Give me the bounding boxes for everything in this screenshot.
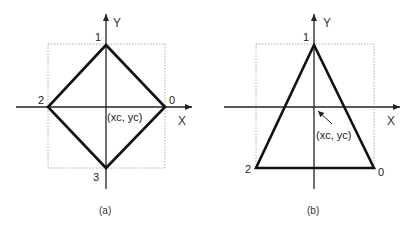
figure-a: Y X 0 1 2 3 (xc, yc) (a) (16, 14, 192, 216)
diagram-canvas: Y X 0 1 2 3 (xc, yc) (a) Y X 0 1 2 (xc, … (0, 0, 417, 230)
vertex-label-1-b: 1 (303, 31, 309, 43)
caption-b: (b) (307, 205, 319, 216)
vertex-label-0-a: 0 (169, 94, 175, 106)
y-axis-label-b: Y (323, 16, 331, 30)
center-label-b: (xc, yc) (316, 129, 351, 141)
vertex-label-2-b: 2 (245, 163, 251, 175)
vertex-label-2-a: 2 (38, 94, 44, 106)
center-pointer-arrow (318, 111, 332, 124)
vertex-label-3-a: 3 (93, 171, 99, 183)
x-axis-label-b: X (387, 114, 395, 128)
y-axis-label-a: Y (113, 16, 121, 30)
center-label-a: (xc, yc) (107, 111, 142, 123)
vertex-label-1-a: 1 (95, 31, 101, 43)
bounding-box-b (256, 44, 374, 168)
figure-b: Y X 0 1 2 (xc, yc) (b) (224, 14, 400, 216)
x-axis-label-a: X (178, 114, 186, 128)
caption-a: (a) (99, 205, 111, 216)
vertex-label-0-b: 0 (378, 166, 384, 178)
